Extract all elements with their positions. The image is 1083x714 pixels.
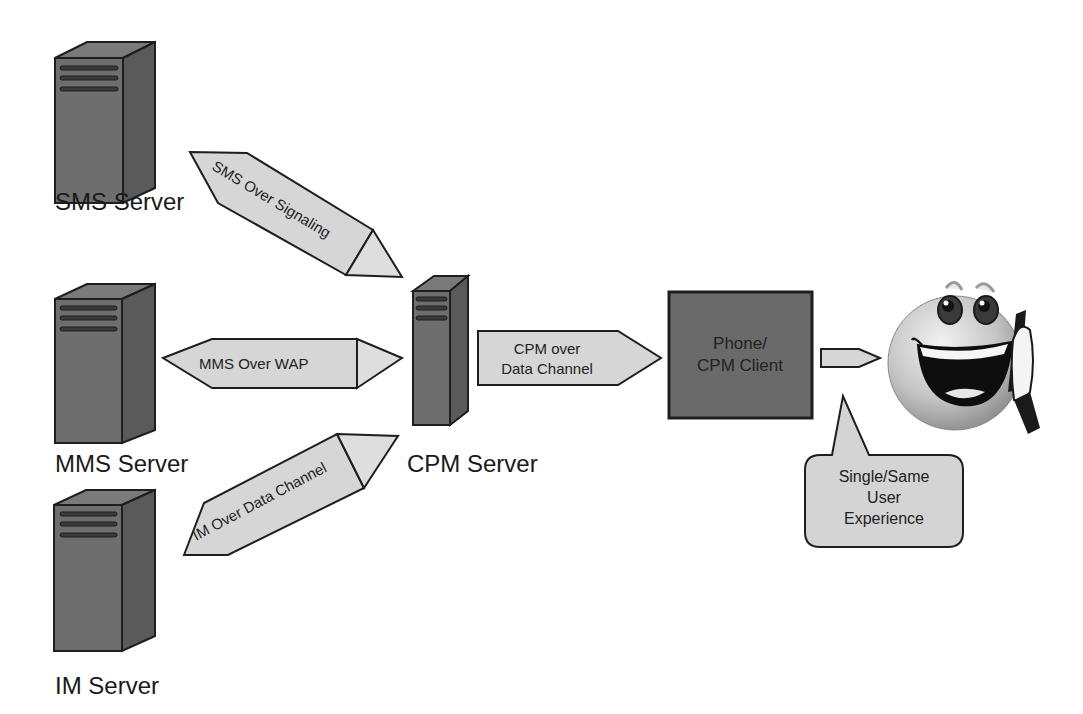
smiley-on-phone-icon [888,282,1040,434]
callout-line2: User [867,489,901,506]
cpm-server-icon [413,276,468,425]
im-server-label: IM Server [55,672,159,700]
sms-server-label: SMS Server [55,188,184,216]
client-label-line1: Phone/ [713,334,767,353]
client-to-user-arrow [821,349,880,367]
diagram-canvas: SMS Over Signaling MMS Over WAP IM Over … [0,0,1083,714]
sms-over-signaling-arrow: SMS Over Signaling [190,152,402,277]
cpm-arrow-label-line1: CPM over [514,340,581,357]
cpm-server-label: CPM Server [407,450,538,478]
mms-arrow-label: MMS Over WAP [199,355,308,372]
callout-line3: Experience [844,510,924,527]
sms-server-icon [55,42,155,203]
cpm-arrow-label-line2: Data Channel [501,360,593,377]
im-over-data-channel-arrow: IM Over Data Channel [184,434,398,555]
mms-server-label: MMS Server [55,450,188,478]
mms-server-icon [55,284,155,443]
callout-line1: Single/Same [839,468,930,485]
mms-over-wap-arrow: MMS Over WAP [163,339,402,388]
client-label-line2: CPM Client [697,356,783,375]
cpm-over-data-channel-arrow: CPM over Data Channel [478,331,661,385]
im-server-icon [54,490,155,651]
phone-cpm-client-box: Phone/ CPM Client [669,292,812,418]
